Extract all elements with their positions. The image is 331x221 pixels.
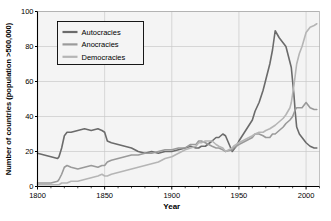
y-tick-label-100: 100 — [21, 7, 34, 16]
x-axis-title: Year — [163, 202, 180, 211]
legend-label-autocracies: Autocracies — [82, 28, 121, 37]
y-tick-label-40: 40 — [25, 112, 33, 121]
y-tick-label-0: 0 — [29, 182, 33, 191]
legend-label-anocracies: Anocracies — [82, 40, 119, 49]
legend-label-democracies: Democracies — [82, 53, 126, 62]
polity-trends-line-chart: 02040608010018001850190019502000YearNumb… — [0, 0, 331, 221]
x-tick-label-1900: 1900 — [163, 191, 180, 200]
x-tick-label-1800: 1800 — [29, 191, 46, 200]
chart-container: 02040608010018001850190019502000YearNumb… — [0, 0, 331, 221]
x-tick-label-1850: 1850 — [96, 191, 113, 200]
legend: AutocraciesAnocraciesDemocracies — [58, 22, 144, 65]
x-tick-label-2000: 2000 — [298, 191, 315, 200]
y-axis-title: Number of countries (population >500,000… — [4, 22, 13, 175]
y-tick-label-60: 60 — [25, 77, 33, 86]
y-tick-label-80: 80 — [25, 42, 33, 51]
y-tick-label-20: 20 — [25, 147, 33, 156]
x-tick-label-1950: 1950 — [231, 191, 248, 200]
